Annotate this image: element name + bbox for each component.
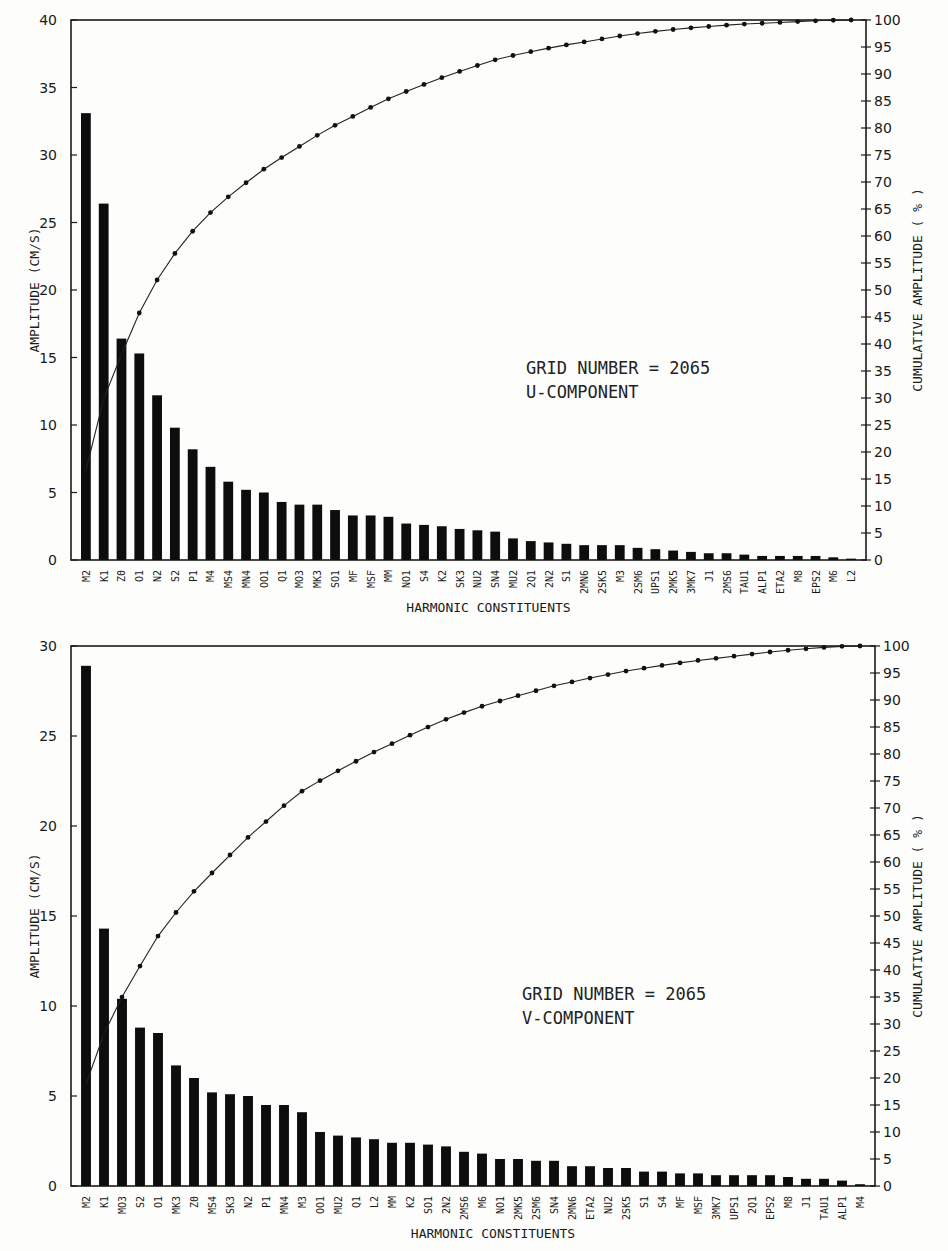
u-ylabel-right: CUMULATIVE AMPLITUDE ( % ) [910,188,925,392]
v-bar-ups1 [729,1175,739,1186]
u-xtick-label: 2MN6 [579,570,590,594]
u-cumulative-point [261,167,266,172]
v-cumulative-point [480,704,485,709]
v-component-chart: 0510152025300510152025303540455055606570… [0,625,948,1251]
u-ytick-label: 35 [39,80,57,96]
u-cumulative-point [297,144,302,149]
v-xtick-label: O1 [153,1196,164,1208]
u-cumulative-point [244,180,249,185]
v-xtick-label: Z0 [189,1196,200,1208]
u-cumulative-point [528,49,533,54]
v-cumulative-point [372,750,377,755]
v-bar-mo3 [117,999,127,1186]
v-cumulative-point [642,666,647,671]
u-bar-2n2 [544,542,554,560]
v-ytick-right-label: 20 [883,1070,901,1086]
v-ylabel-right: CUMULATIVE AMPLITUDE ( % ) [910,814,925,1018]
u-cumulative-point [493,57,498,62]
v-xtick-label: TAU1 [819,1196,830,1220]
v-ytick-right-label: 65 [883,827,901,843]
v-bar-sn4 [549,1161,559,1186]
u-ytick-right-label: 0 [874,552,883,568]
u-cumulative-point [457,69,462,74]
u-xtick-label: MN4 [241,570,252,588]
u-bar-mk3 [312,505,322,560]
v-bar-s2 [135,1028,145,1186]
v-xtick-label: SK3 [225,1196,236,1214]
u-bar-mf [348,515,358,560]
v-xtick-label: 2MK5 [513,1196,524,1220]
u-xtick-label: M2 [81,570,92,582]
u-bar-m6 [828,557,838,560]
u-bar-m4 [206,467,216,560]
v-bar-z0 [189,1078,199,1186]
v-xtick-label: SN4 [549,1196,560,1214]
v-ytick-right-label: 5 [883,1151,892,1167]
v-xtick-label: 2SK5 [621,1196,632,1220]
u-cumulative-point [760,21,765,26]
u-cumulative-point [350,114,355,119]
u-cumulative-point [368,105,373,110]
u-xtick-label: J1 [704,570,715,582]
u-bar-mn4 [241,490,251,560]
v-cumulative-point [498,699,503,704]
u-bar-l2 [846,559,856,560]
v-xtick-label: ALP1 [837,1196,848,1220]
u-bar-sk3 [455,529,465,560]
v-xtick-label: S1 [639,1196,650,1208]
v-ytick-right-label: 0 [883,1178,892,1194]
u-xtick-label: S4 [419,570,430,582]
u-cumulative-point [546,46,551,51]
u-cumulative-point [689,25,694,30]
v-xtick-label: S2 [135,1196,146,1208]
u-cumulative-point [778,20,783,25]
u-bar-alp1 [757,556,767,560]
u-cumulative-point [511,53,516,58]
v-xtick-label: J1 [801,1196,812,1208]
v-cumulative-point [444,717,449,722]
u-bar-k1 [99,204,109,560]
v-cumulative-point [462,710,467,715]
u-ytick-right-label: 65 [874,201,892,217]
u-bar-ups1 [650,549,660,560]
v-bar-l2 [369,1139,379,1186]
u-cumulative-point [635,31,640,36]
v-xtick-label: MSF [693,1196,704,1214]
u-xtick-label: Q1 [277,570,288,582]
v-bar-eps2 [765,1175,775,1186]
v-chart-svg: 0510152025300510152025303540455055606570… [0,625,948,1251]
u-bar-eps2 [811,556,821,560]
u-bar-mo3 [295,505,305,560]
v-ytick-right-label: 10 [883,1124,901,1140]
u-xtick-label: L2 [846,570,857,582]
u-cumulative-point [475,63,480,68]
u-cumulative-point [119,352,124,357]
u-xtick-label: TAU1 [739,570,750,594]
v-xtick-label: M3 [297,1196,308,1208]
v-cumulative-point [786,648,791,653]
u-ytick-right-label: 70 [874,174,892,190]
v-bar-2sm6 [531,1161,541,1186]
v-xtick-label: M6 [477,1196,488,1208]
u-bar-j1 [704,553,714,560]
u-cumulative-point [600,37,605,42]
u-ytick-label: 5 [48,485,57,501]
v-xtick-label: M2 [81,1196,92,1208]
v-cumulative-point [156,934,161,939]
v-xtick-label: OO1 [315,1196,326,1214]
u-xtick-label: UPS1 [650,570,661,594]
v-ytick-right-label: 30 [883,1016,901,1032]
v-ytick-label: 20 [39,818,57,834]
v-bar-m3 [297,1112,307,1186]
u-cumulative-point [439,75,444,80]
u-cumulative-point [279,155,284,160]
v-ytick-label: 0 [48,1178,57,1194]
v-cumulative-point [696,658,701,663]
u-bar-p1 [188,449,198,560]
u-xtick-label: EPS2 [811,570,822,594]
v-bar-msf [693,1173,703,1186]
v-xtick-label: MF [675,1196,686,1208]
u-bar-oo1 [259,493,269,561]
v-ytick-right-label: 70 [883,800,901,816]
v-cumulative-point [732,654,737,659]
